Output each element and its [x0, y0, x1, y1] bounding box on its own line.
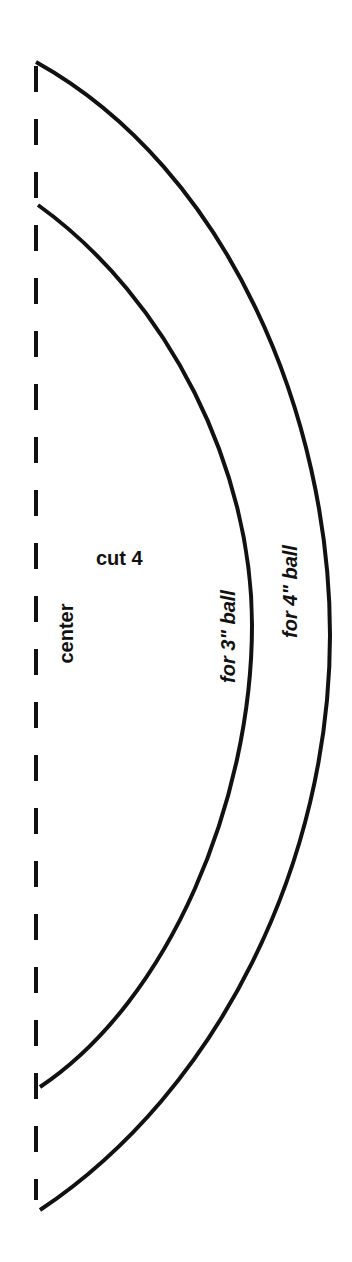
center-label: center [55, 594, 78, 674]
cut-label: cut 4 [96, 547, 143, 570]
outer-size-label: for 4" ball [279, 527, 302, 657]
inner-size-label: for 3" ball [217, 572, 240, 702]
